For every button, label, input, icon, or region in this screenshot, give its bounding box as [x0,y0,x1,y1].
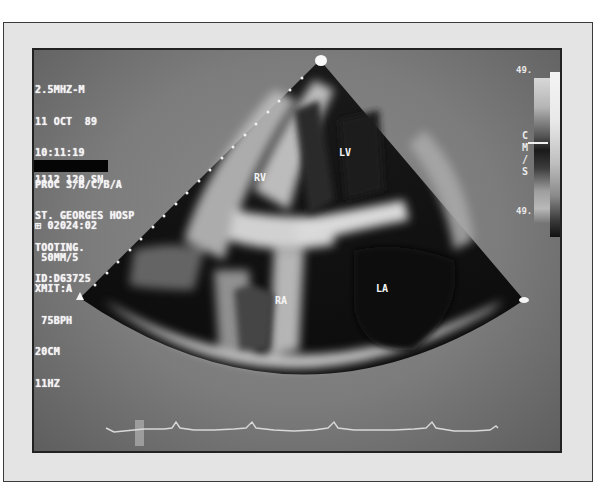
depth-label: 20CM [35,347,97,358]
right-corner-marker [519,297,529,303]
scale-unit-label: C M / S [520,130,530,178]
chamber-label-rv: RV [254,172,266,183]
serial-label: 1112 120 SN [35,175,103,186]
scale-top-value: 49. [516,65,532,75]
frame-rate-label: 11HZ [35,379,97,390]
redaction-bar [34,160,108,172]
scale-bottom-value: 49. [516,206,532,216]
time-label: 10:11:19 [35,148,135,159]
frequency-label: 2.5MHZ-M [35,85,135,96]
sweep-speed-label: 50MM/5 [35,253,97,264]
frame-counter-label: ⊞ 02024:02 [35,221,97,232]
chamber-label-lv: LV [339,147,351,158]
probe-orientation-marker [315,55,327,66]
heart-rate-label: 75BPH [35,316,97,327]
baseline-marker [528,142,548,144]
ecg-cursor [135,420,144,446]
ultrasound-display: 2.5MHZ-M 11 OCT 89 10:11:19 PROC 3/B/C/B… [32,48,562,453]
grayscale-bar [550,72,562,237]
chamber-label-ra: RA [275,295,287,306]
xmit-label: XMIT:A [35,284,97,295]
chamber-label-la: LA [376,283,388,294]
ecg-trace [34,390,562,450]
date-label: 11 OCT 89 [35,117,135,128]
scanner-info-bottom: ⊞ 02024:02 50MM/5 XMIT:A 75BPH 20CM 11HZ [35,200,97,410]
velocity-scale-bar [534,78,550,223]
